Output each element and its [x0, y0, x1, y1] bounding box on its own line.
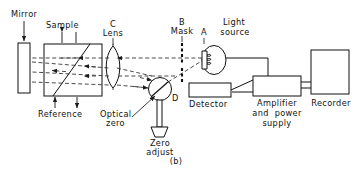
- label-source-letter: A: [196, 28, 212, 38]
- label-sample: Sample: [46, 21, 79, 31]
- label-recorder: Recorder: [309, 99, 353, 109]
- figure-canvas: Mirror Sample Reference C Lens B Mask A …: [0, 0, 353, 175]
- label-detector: Detector: [189, 100, 227, 110]
- optical-zero-chopper: [132, 78, 172, 138]
- light-source-element: [202, 38, 226, 75]
- figure-caption: (b): [158, 157, 194, 167]
- label-reference: Reference: [38, 110, 82, 120]
- label-chopper-letter: D: [172, 94, 179, 104]
- sample-reference-cell-block: [44, 32, 102, 108]
- label-amplifier-line3: supply: [248, 119, 306, 129]
- recorder-box: [311, 50, 349, 94]
- lens-element: [106, 38, 120, 90]
- label-mirror: Mirror: [11, 10, 37, 20]
- label-lens: Lens: [99, 29, 127, 39]
- amplifier-box: [253, 76, 301, 96]
- label-light-source-line2: source: [213, 28, 257, 38]
- detector-box: [189, 83, 231, 97]
- label-mask: Mask: [166, 27, 198, 37]
- label-optical-zero-line2: zero: [106, 119, 125, 129]
- mirror-element: [18, 21, 30, 93]
